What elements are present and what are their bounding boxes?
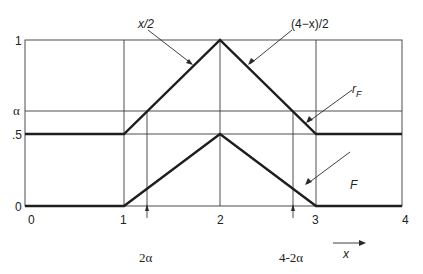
x-tick-2: 2 xyxy=(217,213,224,227)
F-label: F xyxy=(350,178,358,192)
two-alpha-arrow-icon xyxy=(145,204,149,211)
four-minus-x-arrowhead-icon xyxy=(248,58,255,65)
x-tick-3: 3 xyxy=(312,213,319,227)
four-minus-x-over-2-label: (4−x)/2 xyxy=(291,17,329,31)
F-curve xyxy=(25,134,402,206)
F-leader xyxy=(307,152,350,184)
four-minus-x-leader xyxy=(250,30,292,64)
plot-frame xyxy=(25,40,402,206)
x-axis-arrowhead-icon xyxy=(359,240,366,246)
x-axis-label: x xyxy=(342,247,350,261)
x-tick-4: 4 xyxy=(402,213,409,227)
y-tick-alpha: α xyxy=(13,103,20,118)
four-minus-two-alpha-arrow-icon xyxy=(291,204,295,211)
rF-arrowhead-icon xyxy=(306,116,313,123)
x-tick-0: 0 xyxy=(28,213,35,227)
y-tick-0: 0 xyxy=(15,200,22,214)
F-arrowhead-icon xyxy=(305,178,312,185)
two-alpha-label: 2α xyxy=(139,250,153,265)
four-minus-two-alpha-label: 4-2α xyxy=(279,250,303,265)
x-over-2-label: x/2 xyxy=(137,17,154,31)
x-tick-1: 1 xyxy=(120,213,127,227)
y-tick-half: .5 xyxy=(12,128,22,142)
membership-diagram: 1 α .5 0 0 1 2 3 4 2α 4-2α x x/2 (4−x)/2… xyxy=(0,0,423,274)
rF-leader xyxy=(308,90,352,122)
y-tick-1: 1 xyxy=(15,34,22,48)
rF-curve xyxy=(25,40,402,134)
rF-label: rF xyxy=(352,82,362,99)
x-over-2-leader xyxy=(148,30,192,64)
